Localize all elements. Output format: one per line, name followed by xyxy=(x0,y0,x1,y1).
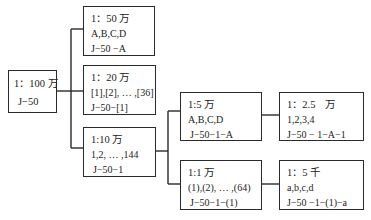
node-code: J−50 xyxy=(14,94,56,109)
node-1-10000: 1:1 万 (1),(2), … ,(64) J−50−1−(1) xyxy=(180,160,262,210)
node-1-100000: 1:10 万 1,2, … ,144 J−50−1 xyxy=(83,127,156,177)
node-1-1000000: 1：100 万 J−50 xyxy=(8,70,57,113)
node-sheets: [1],[2], … ,[36] xyxy=(91,85,155,100)
node-scale: 1：5 千 xyxy=(287,165,363,180)
node-scale: 1:10 万 xyxy=(91,132,155,147)
node-scale: 1：2.5 万 xyxy=(287,97,363,112)
node-1-200000: 1：20 万 [1],[2], … ,[36] J−50−[1] xyxy=(83,65,156,115)
node-code: J−50−1−(1) xyxy=(188,195,261,210)
node-sheets: (1),(2), … ,(64) xyxy=(188,180,261,195)
node-code: J−50−1−A xyxy=(188,127,261,142)
node-sheets: 1,2,3,4 xyxy=(287,112,363,127)
node-1-50000: 1:5 万 A,B,C,D J−50−1−A xyxy=(180,92,262,141)
node-sheets: 1,2, … ,144 xyxy=(91,147,155,162)
node-scale: 1：20 万 xyxy=(91,70,155,85)
node-1-25000: 1：2.5 万 1,2,3,4 J−50 − 1−A−1 xyxy=(279,92,364,141)
node-sheets: A,B,C,D xyxy=(188,112,261,127)
node-scale: 1：50 万 xyxy=(91,11,154,26)
node-code: J−50 −1−(1)−a xyxy=(287,195,363,210)
node-1-5000: 1：5 千 a,b,c,d J−50 −1−(1)−a xyxy=(279,160,364,210)
node-1-500000: 1：50 万 A,B,C,D J−50 −A xyxy=(83,6,155,56)
node-sheets: a,b,c,d xyxy=(287,180,363,195)
node-scale: 1：100 万 xyxy=(14,76,56,91)
node-scale: 1:1 万 xyxy=(188,165,261,180)
node-code: J−50 − 1−A−1 xyxy=(287,127,363,142)
node-code: J−50−1 xyxy=(91,162,155,177)
node-code: J−50−[1] xyxy=(91,100,155,115)
node-sheets: A,B,C,D xyxy=(91,26,154,41)
node-scale: 1:5 万 xyxy=(188,97,261,112)
node-code: J−50 −A xyxy=(91,41,154,56)
